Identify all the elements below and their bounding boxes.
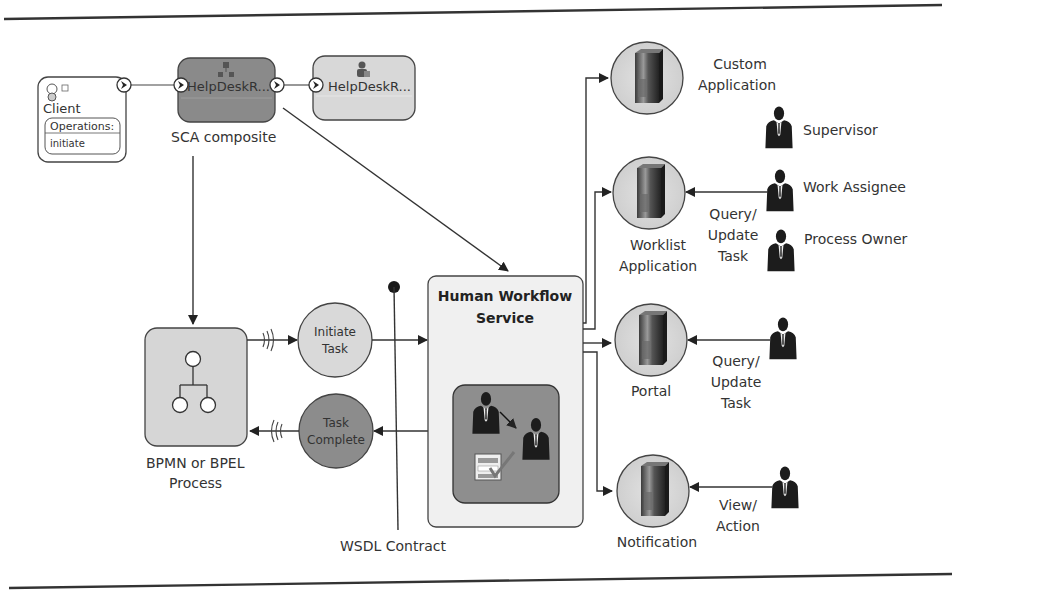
hws-title-1: Human Workflow (438, 288, 572, 304)
notification-label: Notification (617, 534, 697, 550)
task-complete-node: Task Complete (299, 394, 373, 468)
initiate-task-line2: Task (321, 342, 348, 356)
operations-header: Operations: (50, 120, 114, 133)
server-icon (637, 164, 665, 218)
notification-view-2: Action (716, 518, 760, 534)
worklist-line2: Application (619, 258, 697, 274)
sca-component-human-task: HelpDeskR... (309, 56, 415, 120)
supervisor-person-icon (765, 107, 792, 149)
portal-query-3: Task (720, 395, 752, 411)
operation-initiate: initiate (50, 138, 85, 149)
sca-to-hws-arrow (283, 108, 508, 271)
portal-query-2: Update (711, 374, 762, 390)
process-owner-label: Process Owner (804, 231, 908, 247)
bpmn-caption-1: BPMN or BPEL (146, 455, 245, 471)
sca-component-main: HelpDeskR... (174, 58, 284, 122)
sca-composite-caption: SCA composite (171, 129, 276, 145)
top-rule (4, 5, 942, 19)
server-icon (639, 311, 667, 365)
hws-title-2: Service (476, 310, 534, 326)
service-port-icon (117, 78, 131, 92)
worklist-query-2: Update (708, 227, 759, 243)
custom-app-line1: Custom (713, 56, 767, 72)
sca-component-1-label: HelpDeskR... (187, 79, 270, 94)
supervisor-label: Supervisor (803, 122, 878, 138)
worklist-query-3: Task (717, 248, 749, 264)
portal-query-1: Query/ (712, 353, 760, 369)
portal-label: Portal (631, 383, 671, 399)
server-icon (635, 49, 663, 103)
initiate-task-line1: Initiate (314, 325, 356, 339)
initiate-task-node: Initiate Task (298, 303, 372, 377)
work-assignee-person-icon (766, 170, 793, 212)
bottom-rule (9, 574, 952, 588)
notification-user-person-icon (771, 467, 798, 509)
server-icon (641, 462, 669, 516)
reference-port-icon-in (174, 78, 188, 92)
human-workflow-service-box: Human Workflow Service (428, 276, 583, 527)
wsdl-contract-line (394, 287, 398, 530)
notification-node (617, 455, 689, 527)
process-owner-person-icon (767, 230, 794, 272)
workflow-diagram: Client Operations: initiate HelpDeskR...… (0, 0, 1045, 597)
portal-node (615, 304, 687, 376)
task-complete-line1: Task (322, 416, 349, 430)
hws-to-notification (583, 352, 612, 491)
collapse-icon (62, 85, 68, 91)
custom-app-line2: Application (698, 77, 776, 93)
bpmn-process-box (145, 328, 247, 446)
worklist-line1: Worklist (630, 237, 687, 253)
sca-component-2-label: HelpDeskR... (328, 79, 411, 94)
service-port-icon-2 (309, 78, 323, 92)
client-title: Client (43, 101, 81, 116)
notification-view-1: View/ (719, 497, 757, 513)
wsdl-caption: WSDL Contract (340, 538, 446, 554)
custom-application-node (611, 42, 683, 114)
client-component: Client Operations: initiate (38, 77, 126, 162)
work-assignee-label: Work Assignee (803, 179, 906, 195)
client-icon (47, 84, 57, 101)
task-complete-line2: Complete (307, 433, 365, 447)
portal-user-person-icon (769, 318, 796, 360)
reference-port-icon-out (270, 78, 284, 92)
worklist-query-1: Query/ (709, 206, 757, 222)
worklist-application-node (613, 157, 685, 229)
bpmn-caption-2: Process (169, 475, 222, 491)
hws-to-worklist (583, 192, 611, 329)
